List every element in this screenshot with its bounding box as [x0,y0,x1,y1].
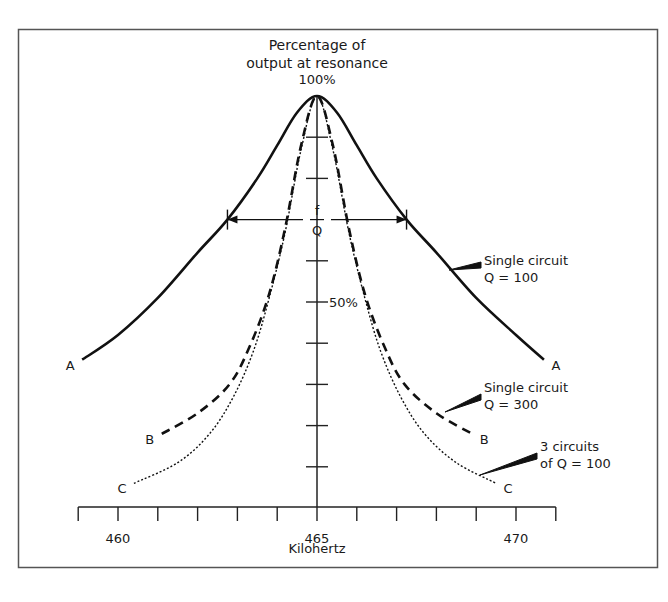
series-leader-line [449,262,481,270]
y-tick-label: 50% [329,295,358,310]
series-layer: AABBCC [66,96,561,496]
series-annotation-label: Single circuit [484,253,568,268]
resonance-chart: 460465470100%50% AABBCC fQSingle circuit… [0,0,668,602]
series-leader-line [480,453,537,475]
series-annotation-label: Single circuit [484,380,568,395]
chart-title-line-2: output at resonance [246,55,388,71]
x-axis-label: Kilohertz [288,541,345,556]
axes: 460465470100%50% [78,72,556,546]
series-annotation-label: 3 circuits [540,439,599,454]
series-leader-line [445,394,481,412]
series-end-label-left: A [66,358,75,373]
x-tick-label: 470 [504,531,529,546]
chart-title-line-1: Percentage of [269,37,367,53]
series-end-label-right: B [480,432,489,447]
series-end-label-left: B [145,432,154,447]
bandwidth-label-numerator: f [315,204,320,218]
series-end-label-right: A [551,358,560,373]
series-end-label-left: C [117,481,126,496]
series-annotation-label: of Q = 100 [540,456,611,471]
series-end-label-right: C [504,481,513,496]
x-tick-label: 460 [106,531,131,546]
annotations: fQSingle circuitQ = 100Single circuitQ =… [227,204,610,475]
bandwidth-label-denominator: Q [312,223,322,238]
y-tick-label: 100% [298,72,335,87]
series-annotation-label: Q = 300 [484,397,538,412]
series-annotation-label: Q = 100 [484,270,538,285]
